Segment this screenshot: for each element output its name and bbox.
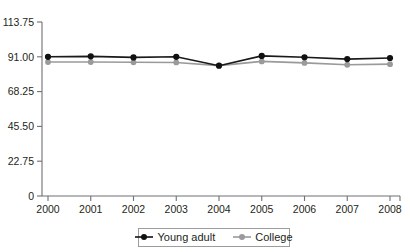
legend-label: Young adult <box>157 231 215 244</box>
x-tick-label: 2005 <box>250 203 274 215</box>
y-tick-label: 45.50 <box>8 120 34 132</box>
data-series-group <box>45 53 393 69</box>
legend-entry: College <box>233 231 292 244</box>
x-tick-label: 2004 <box>207 203 231 215</box>
data-point-marker <box>302 60 308 66</box>
x-tick-label: 2001 <box>79 203 103 215</box>
x-tick-label: 2008 <box>378 203 402 215</box>
x-tick-label: 2006 <box>293 203 317 215</box>
data-point-marker <box>45 59 51 65</box>
data-point-marker <box>387 55 393 61</box>
data-point-marker <box>88 53 94 59</box>
data-point-marker <box>88 59 94 65</box>
x-axis: 200020012002200320042005200620072008 <box>36 196 402 215</box>
data-point-marker <box>130 54 136 60</box>
x-tick-label: 2000 <box>36 203 60 215</box>
legend-entry: Young adult <box>135 231 215 244</box>
data-point-marker <box>301 54 307 60</box>
chart-legend: Young adultCollege <box>138 228 290 247</box>
data-point-marker <box>173 60 179 66</box>
legend-marker-icon <box>135 232 153 242</box>
data-point-marker <box>173 54 179 60</box>
y-tick-label: 22.75 <box>8 155 34 167</box>
x-tick-label: 2002 <box>122 203 146 215</box>
data-point-marker <box>216 63 222 69</box>
data-point-marker <box>259 58 265 64</box>
x-tick-label: 2003 <box>165 203 189 215</box>
data-point-marker <box>45 54 51 60</box>
y-tick-label: 113.75 <box>3 16 34 28</box>
data-point-marker <box>344 62 350 68</box>
data-point-marker <box>387 61 393 67</box>
y-tick-label: 91.00 <box>8 51 34 63</box>
chart-plot-area: 022.7545.5068.2591.00113.75 200020012002… <box>0 0 410 252</box>
data-point-marker <box>259 53 265 59</box>
y-tick-label: 0 <box>28 190 34 202</box>
y-tick-label: 68.25 <box>8 85 34 97</box>
legend-label: College <box>255 231 292 244</box>
data-point-marker <box>344 56 350 62</box>
line-chart: 022.7545.5068.2591.00113.75 200020012002… <box>0 0 410 252</box>
x-tick-label: 2007 <box>336 203 360 215</box>
legend-marker-icon <box>233 232 251 242</box>
y-axis: 022.7545.5068.2591.00113.75 <box>3 16 42 202</box>
